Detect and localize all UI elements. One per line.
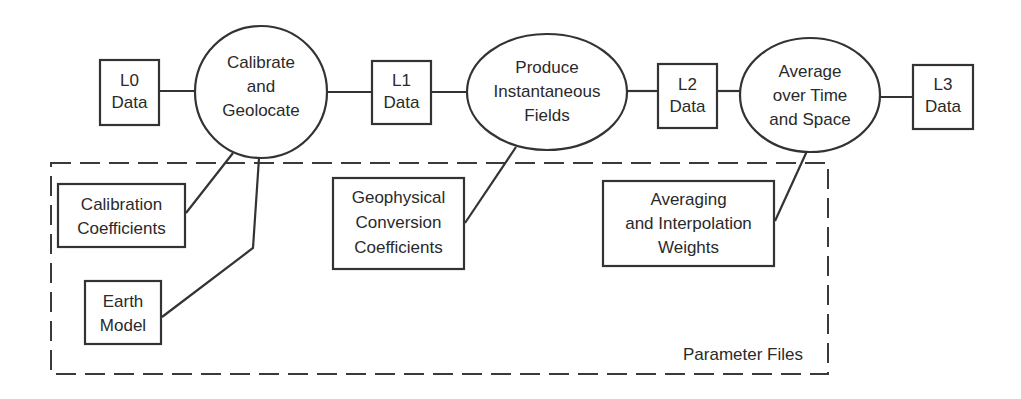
svg-text:Calibration: Calibration [81,195,162,214]
svg-text:Calibrate: Calibrate [227,53,295,72]
svg-text:Data: Data [384,93,420,112]
svg-text:and Space: and Space [769,110,850,129]
parameter-files-label: Parameter Files [683,345,803,364]
svg-text:Data: Data [670,97,706,116]
svg-text:Geolocate: Geolocate [222,101,300,120]
connector-averaging-weights [775,151,807,221]
svg-text:Geophysical: Geophysical [352,188,446,207]
svg-text:L2: L2 [678,75,697,94]
l3-data-box: L3 Data [913,65,973,129]
earth-model-box: Earth Model [85,281,161,344]
average-time-space-process: Average over Time and Space [740,38,880,152]
calibrate-geolocate-process: Calibrate and Geolocate [195,26,327,158]
svg-text:Average: Average [778,62,841,81]
svg-text:Coefficients: Coefficients [354,238,443,257]
l2-data-box: L2 Data [658,64,717,128]
l0-data-box: L0 Data [100,60,159,125]
svg-text:Instantaneous: Instantaneous [494,82,601,101]
produce-instantaneous-fields-process: Produce Instantaneous Fields [467,34,627,150]
connector-geophysical-coefficients [465,147,516,223]
averaging-interpolation-weights-box: Averaging and Interpolation Weights [603,181,774,266]
svg-text:Coefficients: Coefficients [77,219,166,238]
svg-text:Earth: Earth [103,292,144,311]
l1-data-box: L1 Data [372,61,431,124]
geophysical-conversion-coefficients-box: Geophysical Conversion Coefficients [333,178,464,269]
svg-text:Model: Model [100,316,146,335]
svg-text:Data: Data [925,97,961,116]
svg-text:and: and [247,77,275,96]
svg-text:Fields: Fields [524,106,569,125]
svg-text:Data: Data [112,93,148,112]
svg-text:and Interpolation: and Interpolation [625,214,752,233]
svg-text:over Time: over Time [773,86,848,105]
svg-text:L3: L3 [934,75,953,94]
svg-text:L0: L0 [120,71,139,90]
svg-text:Averaging: Averaging [650,190,726,209]
svg-text:Conversion: Conversion [356,213,442,232]
svg-text:Produce: Produce [515,58,578,77]
calibration-coefficients-box: Calibration Coefficients [58,184,185,247]
processing-flow-diagram: Parameter Files L0 Data Calibrate and Ge… [0,0,1021,399]
svg-text:Weights: Weights [658,238,719,257]
svg-text:L1: L1 [392,71,411,90]
